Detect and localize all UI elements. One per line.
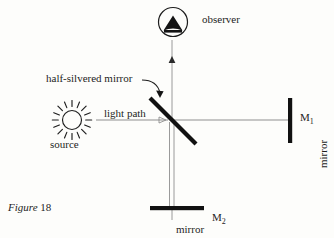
half-silvered-mirror-label: half-silvered mirror (46, 73, 132, 84)
figure-caption: Figure 18 (8, 202, 51, 213)
source-sun-icon (52, 101, 91, 140)
figure-caption-number: 18 (40, 201, 51, 213)
mirror-m2-bar (150, 206, 204, 210)
beam-arrow-up-icon (169, 56, 176, 63)
half-silvered-mirror-pointer (142, 80, 164, 98)
mirror-m2-subscript: 2 (222, 217, 226, 226)
observer-label: observer (202, 14, 240, 25)
mirror-m1-word-label: mirror (318, 140, 329, 168)
mirror-m2-word-label: mirror (176, 224, 204, 235)
mirror-m1-letter: M (300, 111, 310, 123)
observer-eye-icon (159, 8, 188, 37)
beam-group (96, 40, 288, 220)
half-silvered-mirror-bar (150, 98, 196, 144)
mirror-m1-label: M1 (300, 112, 314, 126)
mirror-m2-letter: M (212, 211, 222, 223)
figure-container: observer source half-silvered mirror lig… (0, 0, 334, 238)
figure-caption-word: Figure (8, 201, 38, 213)
source-label: source (50, 139, 79, 150)
mirror-m2-label: M2 (212, 212, 226, 226)
mirror-m1-bar (288, 98, 292, 143)
light-path-label: light path (104, 108, 146, 119)
mirror-m1-subscript: 1 (310, 117, 314, 126)
